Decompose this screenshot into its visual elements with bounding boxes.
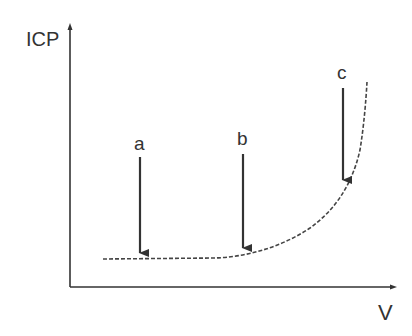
y-axis: [68, 23, 73, 287]
y-axis-arrow-icon: [68, 23, 73, 30]
y-axis-label: ICP: [26, 29, 59, 49]
icp-volume-diagram: [0, 0, 412, 336]
x-axis-label: V: [378, 302, 393, 324]
annotation-b-label: b: [237, 129, 248, 148]
icp-curve: [103, 82, 367, 259]
x-axis-arrow-icon: [390, 285, 397, 290]
annotation-a-label: a: [134, 134, 145, 153]
annotation-c-label: c: [337, 63, 347, 82]
x-axis: [70, 285, 397, 290]
